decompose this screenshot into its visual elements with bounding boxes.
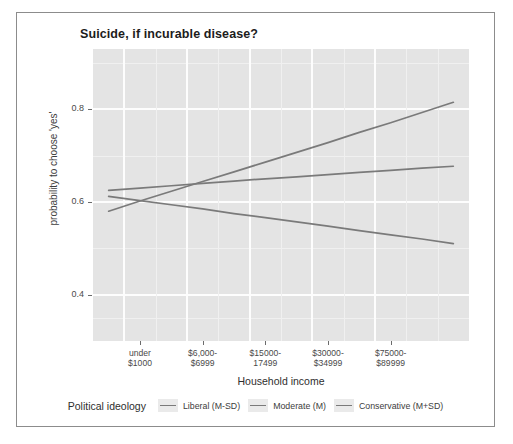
x-tick-line1: $6,000-: [188, 348, 217, 358]
y-axis-tick-mark: [88, 295, 92, 296]
x-axis-tick-mark: [140, 341, 141, 345]
x-axis-tick-label: under$1000: [128, 348, 152, 368]
x-tick-line2: $6999: [191, 358, 215, 368]
chart-legend: Political ideology Liberal (M-SD)Moderat…: [17, 399, 494, 412]
x-tick-line2: 17499: [253, 358, 277, 368]
series-line: [109, 166, 454, 190]
legend-item-label: Conservative (M+SD): [359, 401, 443, 411]
series-line: [109, 196, 454, 243]
x-tick-line1: $15000-: [250, 348, 282, 358]
x-axis-tick-mark: [391, 341, 392, 345]
legend-title: Political ideology: [68, 400, 146, 412]
x-tick-line2: $89999: [376, 358, 405, 368]
series-line: [109, 102, 454, 211]
legend-item[interactable]: Conservative (M+SD): [334, 399, 443, 412]
chart-frame: Suicide, if incurable disease? probabili…: [16, 12, 495, 427]
x-axis-tick-mark: [328, 341, 329, 345]
chart-title: Suicide, if incurable disease?: [80, 27, 258, 41]
x-tick-line2: $1000: [128, 358, 152, 368]
y-axis-tick-label: 0.6: [71, 196, 84, 206]
chart-figure: Suicide, if incurable disease? probabili…: [17, 13, 494, 426]
x-axis-tick-label: $75000-$89999: [375, 348, 407, 368]
y-axis-tick-label: 0.8: [71, 103, 84, 113]
y-axis-tick-mark: [88, 109, 92, 110]
x-tick-line2: $34999: [314, 358, 343, 368]
legend-items: Liberal (M-SD)Moderate (M)Conservative (…: [158, 399, 443, 412]
x-axis-title: Household income: [93, 375, 469, 387]
y-axis-tick-mark: [88, 202, 92, 203]
x-axis-tick-label: $15000-17499: [250, 348, 282, 368]
x-axis-tick-label: $6,000-$6999: [188, 348, 217, 368]
x-axis-tick-mark: [265, 341, 266, 345]
legend-item[interactable]: Liberal (M-SD): [158, 399, 240, 412]
y-axis-tick-label: 0.4: [71, 289, 84, 299]
series-lines: [93, 49, 469, 341]
x-tick-line1: $75000-: [375, 348, 407, 358]
plot-panel: [93, 49, 469, 341]
x-tick-line1: under: [129, 348, 151, 358]
legend-item-label: Moderate (M): [273, 401, 326, 411]
x-tick-line1: $30000-: [312, 348, 344, 358]
x-axis-tick-label: $30000-$34999: [312, 348, 344, 368]
legend-key-line-icon: [334, 399, 354, 412]
legend-item-label: Liberal (M-SD): [183, 401, 240, 411]
legend-key-line-icon: [158, 399, 178, 412]
legend-item[interactable]: Moderate (M): [248, 399, 326, 412]
legend-key-line-icon: [248, 399, 268, 412]
y-axis-title: probability to choose 'yes': [48, 69, 59, 269]
x-axis-tick-mark: [203, 341, 204, 345]
